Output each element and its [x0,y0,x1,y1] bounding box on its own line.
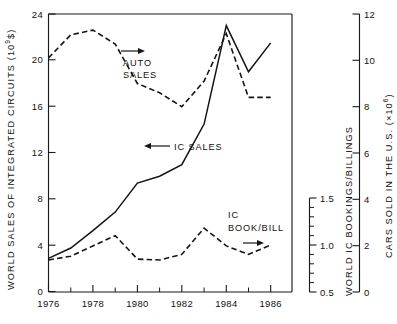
svg-text:CARS SOLD IN THE U.S. (×106): CARS SOLD IN THE U.S. (×106) [382,93,394,258]
annotation-auto-sales-line2: SALES [123,70,157,80]
right-tick-label-6: 6 [364,148,370,159]
left-tick-label-12: 12 [32,147,43,158]
ic-sales-arrow-icon [144,143,151,149]
left-axis-ticks [49,14,56,292]
x-tick-label-1976: 1976 [37,298,59,309]
annotation-auto-sales-line1: AUTO [123,58,152,68]
left-axis-tick-labels: 0 4 8 12 16 20 24 [32,9,43,298]
annotation-ic-book-bill-line2: BOOK/BILL [228,223,284,233]
right-axis-title-main: CARS SOLD IN THE U.S. ( [384,121,394,258]
annotation-ic-book-bill: IC BOOK/BILL [228,210,284,246]
ic-book-bill-arrow-icon [257,240,264,246]
right-tick-label-0: 0 [364,287,370,298]
annotation-ic-book-bill-line1: IC [228,210,239,220]
right-tick-label-10: 10 [364,55,375,66]
annotation-ic-sales: IC SALES [144,142,223,152]
triple-axis-line-chart: 0 4 8 12 16 20 24 WORLD SALES OF INTEGRA… [0,0,397,324]
middle-axis-title: WORLD IC BOOKINGS/BILLINGS [344,126,354,296]
middle-tick-label-10: 1.0 [320,240,334,251]
figure-container: 0 4 8 12 16 20 24 WORLD SALES OF INTEGRA… [0,0,397,324]
annotation-auto-sales: AUTO SALES [121,48,157,80]
right-tick-label-4: 4 [364,194,370,205]
middle-axis: 1.5 1.0 0.5 WORLD IC BOOKINGS/BILLINGS [310,126,355,298]
annotation-ic-sales-label: IC SALES [174,142,223,152]
auto-sales-arrow-icon [138,48,145,54]
svg-text:WORLD SALES OF INTEGRATED CIRC: WORLD SALES OF INTEGRATED CIRCUITS (109$… [4,29,16,291]
left-tick-label-0: 0 [37,286,43,297]
left-axis-title-main: WORLD SALES OF INTEGRATED CIRCUITS (10 [6,44,16,290]
right-tick-label-2: 2 [364,240,370,251]
x-tick-label-1982: 1982 [171,298,193,309]
left-tick-label-8: 8 [37,193,43,204]
left-axis-title-tail: $) [6,29,16,39]
x-axis-ticks [49,285,271,292]
series-auto-sales [49,30,271,107]
middle-tick-label-15: 1.5 [320,193,334,204]
right-axis-title-times: ×10 [384,102,394,121]
left-tick-label-4: 4 [37,240,43,251]
right-axis-title-tail: ) [384,93,394,97]
right-tick-label-8: 8 [364,101,370,112]
x-axis-tick-labels: 1976 1978 1980 1982 1984 1986 [37,298,282,309]
x-tick-label-1978: 1978 [82,298,104,309]
x-tick-label-1986: 1986 [260,298,282,309]
left-tick-label-16: 16 [32,101,43,112]
left-axis-title: WORLD SALES OF INTEGRATED CIRCUITS (109$… [4,29,16,291]
right-axis: 12 10 8 6 4 2 0 CARS SOLD IN THE U.S. (×… [353,9,395,298]
middle-tick-label-05: 0.5 [320,287,334,298]
x-tick-label-1984: 1984 [215,298,237,309]
right-tick-label-12: 12 [364,9,375,20]
x-tick-label-1980: 1980 [126,298,148,309]
left-tick-label-24: 24 [32,9,43,20]
left-tick-label-20: 20 [32,54,43,65]
